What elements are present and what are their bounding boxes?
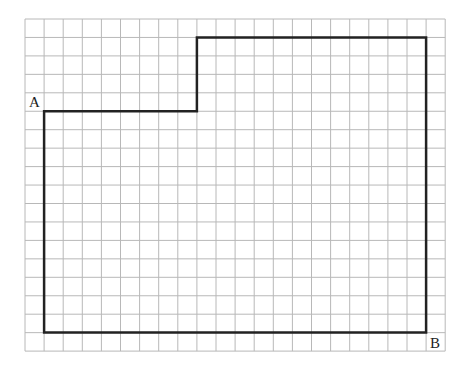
grid-lines	[25, 19, 445, 351]
point-b-label: B	[430, 335, 440, 351]
point-a-label: A	[29, 94, 40, 110]
grid-diagram: A B	[0, 0, 465, 370]
